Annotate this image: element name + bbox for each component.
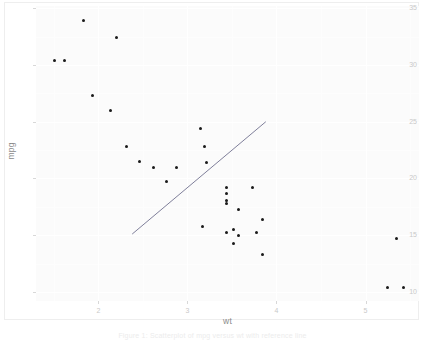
- y-tick-label: 30: [397, 61, 417, 68]
- gridline-major-horizontal: [36, 8, 419, 9]
- data-point: [261, 218, 264, 221]
- y-axis-title: mpg: [6, 128, 16, 174]
- y-tick-label: 20: [397, 174, 417, 181]
- y-tick-mark: [33, 235, 36, 236]
- gridline-minor-vertical: [54, 6, 55, 301]
- data-point: [232, 228, 235, 231]
- y-tick-mark: [33, 65, 36, 66]
- data-point: [53, 59, 56, 62]
- gridline-major-horizontal: [36, 235, 419, 236]
- data-point: [225, 186, 228, 189]
- gridline-minor-vertical: [232, 6, 233, 301]
- y-tick-mark: [33, 122, 36, 123]
- y-tick-mark: [33, 292, 36, 293]
- data-point: [109, 109, 112, 112]
- gridline-minor-vertical: [143, 6, 144, 301]
- x-tick-mark: [98, 301, 99, 304]
- gridline-major-vertical: [366, 6, 367, 301]
- gridline-minor-horizontal: [36, 207, 419, 208]
- data-point: [237, 208, 240, 211]
- figure-caption: Figure 1: Scatterplot of mpg versus wt w…: [0, 332, 425, 339]
- y-tick-label: 35: [397, 4, 417, 11]
- data-point: [261, 253, 264, 256]
- data-point: [125, 145, 128, 148]
- data-point: [115, 36, 118, 39]
- gridline-major-horizontal: [36, 178, 419, 179]
- gridline-major-vertical: [187, 6, 188, 301]
- gridline-major-vertical: [98, 6, 99, 301]
- data-point: [201, 225, 204, 228]
- data-point: [225, 192, 228, 195]
- x-tick-mark: [366, 301, 367, 304]
- x-tick-label: 4: [266, 307, 286, 314]
- chart-figure: mpg wt 1015202530352345 Figure 1: Scatte…: [0, 0, 425, 347]
- y-tick-label: 15: [397, 231, 417, 238]
- x-tick-label: 3: [177, 307, 197, 314]
- reference-line: [36, 6, 419, 301]
- data-point: [138, 160, 141, 163]
- plot-panel: [36, 6, 419, 301]
- data-point: [63, 59, 66, 62]
- gridline-major-horizontal: [36, 65, 419, 66]
- y-tick-mark: [33, 8, 36, 9]
- x-tick-mark: [276, 301, 277, 304]
- data-point: [199, 127, 202, 130]
- data-point: [175, 166, 178, 169]
- x-tick-label: 5: [356, 307, 376, 314]
- gridline-minor-vertical: [410, 6, 411, 301]
- data-point: [203, 145, 206, 148]
- gridline-minor-vertical: [321, 6, 322, 301]
- data-point: [152, 166, 155, 169]
- data-point: [165, 180, 168, 183]
- gridline-minor-horizontal: [36, 150, 419, 151]
- data-point: [232, 242, 235, 245]
- data-point: [237, 234, 240, 237]
- gridline-minor-horizontal: [36, 37, 419, 38]
- data-point: [386, 286, 389, 289]
- data-point: [251, 186, 254, 189]
- data-point: [91, 94, 94, 97]
- y-tick-mark: [33, 178, 36, 179]
- x-axis-title: wt: [36, 316, 419, 326]
- gridline-minor-horizontal: [36, 264, 419, 265]
- data-point: [255, 231, 258, 234]
- data-point: [82, 19, 85, 22]
- y-tick-label: 10: [397, 288, 417, 295]
- data-point: [225, 231, 228, 234]
- x-tick-mark: [187, 301, 188, 304]
- gridline-major-vertical: [276, 6, 277, 301]
- x-tick-label: 2: [88, 307, 108, 314]
- data-point: [205, 161, 208, 164]
- y-tick-label: 25: [397, 118, 417, 125]
- data-point: [225, 202, 228, 205]
- gridline-major-horizontal: [36, 292, 419, 293]
- gridline-major-horizontal: [36, 122, 419, 123]
